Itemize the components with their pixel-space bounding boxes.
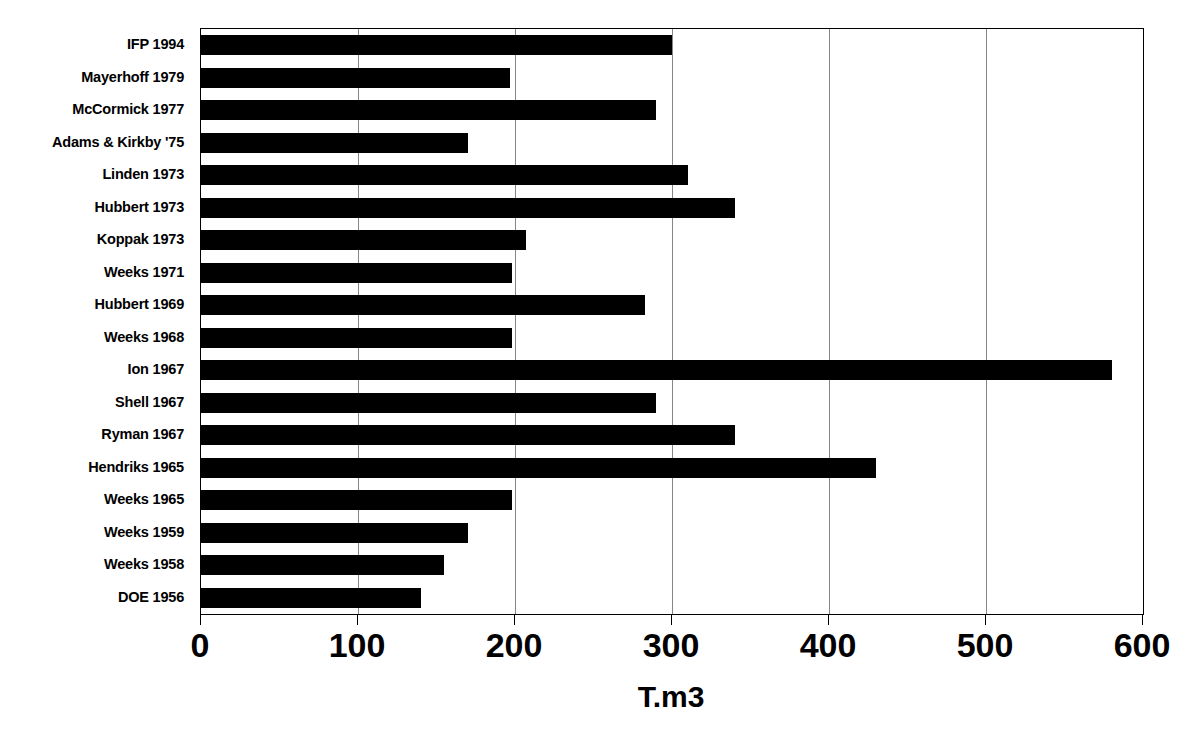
category-label: Ion 1967 <box>128 353 192 386</box>
bar <box>201 458 876 478</box>
bar <box>201 35 672 55</box>
x-axis-tick-label: 0 <box>191 628 210 662</box>
bar-row <box>201 224 1143 257</box>
bar <box>201 295 645 315</box>
x-axis-tick-label: 300 <box>643 628 700 662</box>
bar-row <box>201 62 1143 95</box>
bar-row <box>201 517 1143 550</box>
bar <box>201 588 421 608</box>
bar <box>201 360 1112 380</box>
bar-row <box>201 159 1143 192</box>
category-label: Shell 1967 <box>115 386 192 419</box>
x-axis-tick <box>985 614 986 625</box>
bar-row <box>201 322 1143 355</box>
category-label: IFP 1994 <box>127 28 192 61</box>
bar <box>201 490 512 510</box>
category-axis-labels: IFP 1994Mayerhoff 1979McCormick 1977Adam… <box>0 28 192 613</box>
x-axis-tick <box>200 614 201 625</box>
bar <box>201 425 735 445</box>
x-axis-tick-label: 600 <box>1114 628 1171 662</box>
bars-layer <box>201 29 1143 614</box>
x-axis-tick-labels: 0100200300400500600 <box>200 628 1142 674</box>
bar-row <box>201 257 1143 290</box>
x-axis-tick <box>514 614 515 625</box>
bar-row <box>201 94 1143 127</box>
bar-row <box>201 192 1143 225</box>
x-axis-tick <box>1142 614 1143 625</box>
bar-row <box>201 582 1143 615</box>
category-label: Ryman 1967 <box>101 418 192 451</box>
plot-area <box>200 28 1144 615</box>
bar-row <box>201 387 1143 420</box>
x-axis-tick-label: 400 <box>800 628 857 662</box>
x-axis-tick-label: 100 <box>329 628 386 662</box>
bar <box>201 263 512 283</box>
bar-row <box>201 29 1143 62</box>
x-axis-tick <box>357 614 358 625</box>
bar <box>201 523 468 543</box>
bar-row <box>201 127 1143 160</box>
bar <box>201 68 510 88</box>
bar-row <box>201 419 1143 452</box>
x-axis-tick-label: 500 <box>957 628 1014 662</box>
category-label: DOE 1956 <box>118 581 192 614</box>
category-label: McCormick 1977 <box>72 93 192 126</box>
bar <box>201 165 688 185</box>
category-label: Adams & Kirkby '75 <box>52 126 192 159</box>
bar-row <box>201 289 1143 322</box>
bar <box>201 393 656 413</box>
bar-chart: IFP 1994Mayerhoff 1979McCormick 1977Adam… <box>0 0 1196 747</box>
category-label: Weeks 1971 <box>104 256 192 289</box>
bar-row <box>201 549 1143 582</box>
category-label: Linden 1973 <box>102 158 192 191</box>
bar <box>201 133 468 153</box>
category-label: Hubbert 1969 <box>95 288 192 321</box>
category-label: Weeks 1958 <box>104 548 192 581</box>
x-axis-title: T.m3 <box>200 682 1142 712</box>
category-label: Hubbert 1973 <box>95 191 192 224</box>
category-label: Koppak 1973 <box>97 223 192 256</box>
category-label: Mayerhoff 1979 <box>81 61 192 94</box>
bar-row <box>201 452 1143 485</box>
category-label: Weeks 1968 <box>104 321 192 354</box>
bar <box>201 100 656 120</box>
bar-row <box>201 484 1143 517</box>
category-label: Weeks 1965 <box>104 483 192 516</box>
bar <box>201 230 526 250</box>
bar-row <box>201 354 1143 387</box>
x-axis-tick <box>671 614 672 625</box>
x-axis-tick <box>828 614 829 625</box>
category-label: Hendriks 1965 <box>88 451 192 484</box>
bar <box>201 198 735 218</box>
x-axis-tick-label: 200 <box>486 628 543 662</box>
category-label: Weeks 1959 <box>104 516 192 549</box>
bar <box>201 328 512 348</box>
x-axis-tick-marks <box>200 614 1142 626</box>
bar <box>201 555 444 575</box>
